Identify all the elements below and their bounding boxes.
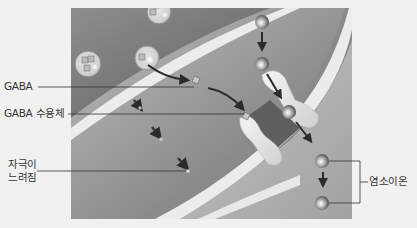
chloride-ion <box>315 196 329 210</box>
synaptic-vesicle <box>75 51 101 77</box>
chloride-ion-label: 염소이온 <box>369 175 408 188</box>
stimulus-slowed-label: 자극이 느려짐 <box>8 158 42 184</box>
synapse-panel <box>71 0 352 219</box>
synaptic-vesicle <box>147 0 171 24</box>
chloride-ion <box>255 15 269 29</box>
chloride-ion <box>282 105 296 119</box>
chloride-ion <box>255 57 269 71</box>
gaba-label: GABA <box>4 80 33 93</box>
chloride-ion <box>315 154 329 168</box>
gaba-receptor-label: GABA 수용체 <box>4 107 65 120</box>
fusing-vesicle <box>135 46 159 70</box>
stimulus-label-line1: 자극이 <box>8 158 37 170</box>
stimulus-label-line2: 느려짐 <box>8 171 37 183</box>
diagram-stage: GABA GABA 수용체 자극이 느려짐 염소이온 <box>0 0 417 228</box>
